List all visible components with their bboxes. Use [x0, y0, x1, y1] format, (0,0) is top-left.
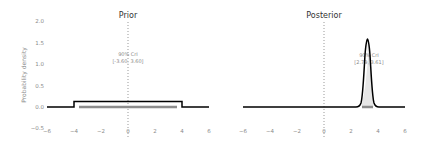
x-tick: −2 — [293, 128, 301, 134]
x-tick-labels: −6 −4 −2 0 2 4 6 — [43, 128, 211, 134]
x-tick: 4 — [180, 128, 184, 134]
crI-range: [2.79, 3.61] — [354, 59, 383, 65]
y-tick-labels: 2.0 1.5 1.0 0.5 0.0 −0.5 — [31, 18, 45, 131]
prior-title: Prior — [119, 11, 138, 20]
x-tick: 2 — [349, 128, 353, 134]
y-tick: 1.5 — [35, 40, 44, 46]
x-tick-labels: −6 −4 −2 0 2 4 6 — [239, 128, 407, 134]
y-tick: 0.0 — [35, 104, 44, 110]
crI-range: [-3.60, 3.60] — [112, 58, 143, 64]
x-tick: −6 — [239, 128, 248, 134]
y-axis-label: Probability density — [20, 47, 28, 103]
x-tick: −6 — [43, 128, 52, 134]
x-tick: −2 — [97, 128, 105, 134]
y-tick: 0.5 — [35, 83, 44, 89]
crI-label: 90% CrI — [118, 51, 138, 57]
posterior-title: Posterior — [306, 11, 342, 20]
x-tick: −4 — [70, 128, 79, 134]
y-tick: 2.0 — [35, 18, 44, 24]
x-tick: 6 — [403, 128, 407, 134]
prior-panel: Prior Probability density 2.0 1.5 1.0 0.… — [20, 11, 211, 137]
posterior-panel: Posterior −6 −4 −2 0 2 4 6 90% CrI [2.79… — [239, 11, 407, 137]
crI-label: 90% CrI — [359, 52, 379, 58]
x-tick: 4 — [376, 128, 380, 134]
x-tick: 6 — [207, 128, 211, 134]
x-tick: 2 — [153, 128, 157, 134]
figure: Prior Probability density 2.0 1.5 1.0 0.… — [0, 0, 427, 142]
x-tick: −4 — [266, 128, 275, 134]
y-tick: 1.0 — [35, 61, 44, 67]
